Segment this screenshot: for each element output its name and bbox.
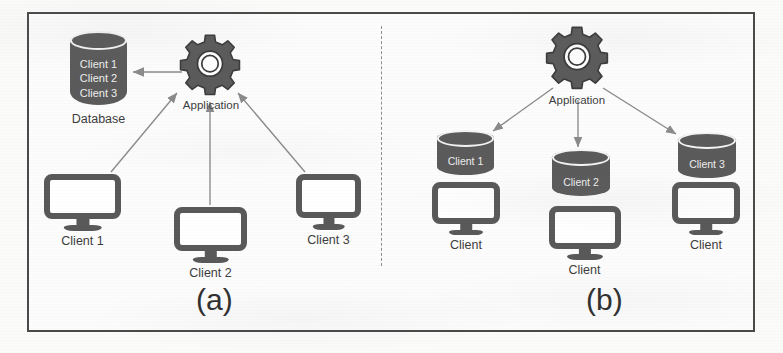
application-caption-b: Application	[538, 94, 616, 106]
monitor-screen	[296, 174, 361, 218]
monitor-base	[63, 225, 102, 231]
client-monitor-icon-2	[174, 207, 247, 264]
database-label: Client 2	[552, 150, 610, 206]
monitor-base	[567, 254, 603, 260]
application-caption-a: Application	[172, 99, 250, 111]
database-label: Client 3	[678, 133, 736, 187]
client-monitor-icon-b3	[672, 182, 740, 236]
database-record: Client 2	[563, 176, 599, 190]
monitor-screen	[672, 182, 740, 224]
client-label-3: Client 3	[293, 233, 364, 247]
client-monitor-icon-b2	[549, 206, 621, 261]
client-label-2: Client 2	[174, 266, 247, 280]
monitor-base	[449, 230, 483, 236]
client-label-b2: Client	[548, 263, 621, 277]
monitor-screen	[432, 182, 500, 224]
application-gear-icon-b	[543, 24, 611, 92]
panel-letter-b: (b)	[586, 285, 623, 315]
client-monitor-icon-b1	[432, 182, 500, 236]
client-label-1: Client 1	[44, 234, 121, 248]
monitor-base	[312, 224, 345, 230]
client-database-icon-1: Client 1	[437, 131, 494, 175]
client-database-icon-2: Client 2	[552, 150, 610, 196]
database-record: Client 1	[80, 57, 117, 71]
monitor-screen	[174, 207, 247, 251]
client-database-icon-3: Client 3	[678, 133, 736, 178]
database-record-labels: Client 1 Client 2 Client 3	[70, 32, 127, 115]
client-monitor-icon-1	[44, 174, 121, 232]
database-label: Client 1	[437, 131, 494, 184]
monitor-screen	[549, 206, 621, 249]
database-record: Client 2	[80, 71, 117, 85]
database-record: Client 3	[80, 86, 117, 100]
application-gear-icon-a	[177, 32, 243, 98]
client-label-b1: Client	[430, 238, 502, 252]
monitor-base	[192, 257, 229, 263]
monitor-screen	[44, 174, 121, 219]
client-monitor-icon-3	[296, 174, 361, 231]
database-record: Client 3	[689, 158, 725, 172]
panel-letter-a: (a)	[196, 285, 233, 315]
database-record: Client 1	[448, 155, 484, 169]
shared-database-icon: Client 1 Client 2 Client 3	[70, 32, 127, 105]
monitor-base	[689, 230, 723, 236]
client-label-b3: Client	[670, 238, 742, 252]
